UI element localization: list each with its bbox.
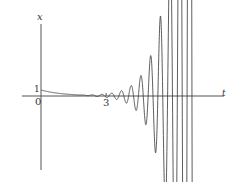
x-tick-label-3: 3 xyxy=(103,98,109,108)
x-axis-label: t xyxy=(222,89,226,98)
origin-label: 0 xyxy=(35,97,41,107)
y-axis-label: x xyxy=(37,12,43,22)
y-tick-label-1: 1 xyxy=(34,85,40,94)
data-curve xyxy=(41,0,195,182)
